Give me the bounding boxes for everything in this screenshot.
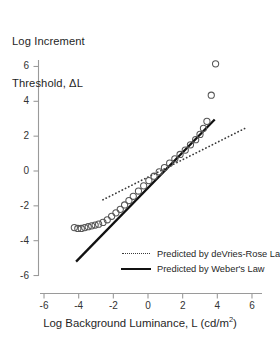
legend-item-weber: Predicted by Weber's Law [120, 261, 280, 276]
data-point-marker [109, 213, 115, 219]
y-tick-label: -4 [13, 235, 29, 246]
data-point-marker [208, 92, 214, 98]
prediction-lines [76, 119, 245, 261]
legend-label-weber: Predicted by Weber's Law [157, 264, 265, 274]
legend-item-devries-rose: Predicted by deVries-Rose Law [120, 246, 280, 261]
data-point-marker [113, 210, 119, 216]
x-axis-label-prefix: Log Background Luminance, L (cd/m [43, 317, 229, 329]
y-tick-label: 2 [13, 130, 29, 141]
weber-line [76, 119, 215, 261]
y-tick-label: -6 [13, 270, 29, 281]
y-axis-label-line1: Log Increment [12, 34, 85, 48]
legend-label-devries-rose: Predicted by deVries-Rose Law [157, 249, 280, 259]
chart-legend: Predicted by deVries-Rose Law Predicted … [120, 246, 280, 276]
data-point-marker [204, 118, 210, 124]
x-tick-label: 2 [173, 300, 193, 311]
x-axis-label-suffix: ) [233, 317, 237, 329]
data-point-marker [212, 61, 218, 67]
x-axis-ticks [44, 294, 252, 299]
data-points [71, 61, 218, 232]
devries-rose-line [103, 128, 245, 199]
y-tick-label: 4 [13, 95, 29, 106]
data-point-marker [146, 177, 152, 183]
x-tick-label: 0 [138, 300, 158, 311]
x-tick-label: 6 [242, 300, 262, 311]
x-tick-label: -4 [69, 300, 89, 311]
y-tick-label: 0 [13, 165, 29, 176]
x-axis-label: Log Background Luminance, L (cd/m2) [0, 317, 280, 329]
data-point-marker [135, 188, 141, 194]
x-tick-label: 4 [207, 300, 227, 311]
x-tick-label: -2 [103, 300, 123, 311]
solid-line-swatch-icon [120, 264, 152, 274]
x-tick-label: -6 [34, 300, 54, 311]
data-point-marker [130, 193, 136, 199]
y-tick-label: 6 [13, 60, 29, 71]
dotted-line-swatch-icon [120, 249, 152, 259]
y-axis-label-line2: Threshold, ΔL [12, 76, 85, 90]
chart-figure: Log Increment Threshold, ΔL -6-4-20246 -… [0, 0, 280, 349]
data-point-marker [141, 183, 147, 189]
y-tick-label: -2 [13, 200, 29, 211]
